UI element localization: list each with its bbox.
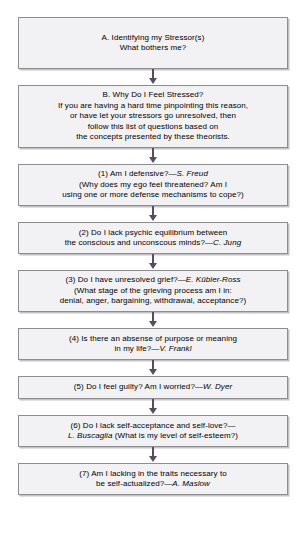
flow-node-question-2-line-1: (2) Do I lack psychic equilibrium betwee… xyxy=(79,228,228,238)
flow-node-question-1-line-2: (Why does my ego feel threatened? Am I xyxy=(79,180,227,190)
flow-node-question-2-line-2: the conscious and unconscous minds?—C. J… xyxy=(65,238,241,248)
question-1-text: (1) Am I defensive?— xyxy=(98,169,177,178)
question-6-attribution: L. Buscaglia xyxy=(68,431,113,440)
question-3-attribution: E. Kübler-Ross xyxy=(186,275,241,284)
flow-node-question-6-line-2: L. Buscaglia (What is my level of self-e… xyxy=(68,431,238,441)
question-2-attribution: C. Jung xyxy=(213,238,241,247)
flow-node-question-1: (1) Am I defensive?—S. Freud (Why does m… xyxy=(18,164,288,206)
question-5-text: (5) Do I feel guilty? Am I worried?— xyxy=(74,382,203,391)
flow-node-question-1-line-1: (1) Am I defensive?—S. Freud xyxy=(98,169,208,179)
flow-arrow-q4-to-q5 xyxy=(18,360,288,376)
question-4-text: in my life?— xyxy=(114,344,159,353)
flow-arrow-b-to-q1 xyxy=(18,148,288,164)
flowchart-container: A. Identifying my Stressor(s) What bothe… xyxy=(0,0,306,540)
flow-node-question-3-line-1: (3) Do I have unresolved grief?—E. Küble… xyxy=(65,275,240,285)
flow-node-question-4: (4) Is there an absense of purpose or me… xyxy=(18,328,288,360)
question-7-attribution: A. Maslow xyxy=(172,479,210,488)
flow-node-a-line-1: A. Identifying my Stressor(s) xyxy=(102,33,205,43)
flow-node-question-4-line-1: (4) Is there an absense of purpose or me… xyxy=(69,334,237,344)
flow-node-question-3-line-3: denial, anger, bargaining, withdrawal, a… xyxy=(60,296,246,306)
flow-arrow-q2-to-q3 xyxy=(18,254,288,270)
arrow-head-down-icon xyxy=(149,321,157,327)
flow-arrow-q3-to-q4 xyxy=(18,312,288,328)
flow-node-question-7-line-2: be self-actualized?—A. Maslow xyxy=(96,479,210,489)
flow-node-question-7-line-1: (7) Am I lacking in the traits necessary… xyxy=(79,469,227,479)
flow-arrow-a-to-b xyxy=(18,69,288,85)
arrow-head-down-icon xyxy=(149,369,157,375)
flow-node-question-7: (7) Am I lacking in the traits necessary… xyxy=(18,463,288,495)
flow-node-b-line-1: B. Why Do I Feel Stressed? xyxy=(103,90,204,100)
flow-node-question-6: (6) Do I lack self-acceptance and self-l… xyxy=(18,415,288,447)
arrow-head-down-icon xyxy=(149,456,157,462)
flow-node-b-line-5: the concepts presented by these theorist… xyxy=(76,132,230,142)
flow-node-a: A. Identifying my Stressor(s) What bothe… xyxy=(18,17,288,69)
flow-node-question-4-line-2: in my life?—V. Frankl xyxy=(114,344,191,354)
question-1-attribution: S. Freud xyxy=(177,169,208,178)
question-4-attribution: V. Frankl xyxy=(159,344,191,353)
flow-node-question-5: (5) Do I feel guilty? Am I worried?—W. D… xyxy=(18,376,288,399)
flow-node-b: B. Why Do I Feel Stressed? If you are ha… xyxy=(18,85,288,148)
arrow-head-down-icon xyxy=(149,215,157,221)
question-6-text: (What is my level of self-esteem?) xyxy=(113,431,239,440)
question-5-attribution: W. Dyer xyxy=(203,382,232,391)
flow-node-question-5-line-1: (5) Do I feel guilty? Am I worried?—W. D… xyxy=(74,382,232,392)
flow-node-question-3-line-2: (What stage of the grieving process am I… xyxy=(74,286,232,296)
arrow-head-down-icon xyxy=(149,157,157,163)
flow-node-question-2: (2) Do I lack psychic equilibrium betwee… xyxy=(18,222,288,254)
arrow-head-down-icon xyxy=(149,263,157,269)
flow-node-question-1-line-3: using one or more defense mechanisms to … xyxy=(62,190,244,200)
flow-arrow-q6-to-q7 xyxy=(18,447,288,463)
flow-node-b-line-2: If you are having a hard time pinpointin… xyxy=(58,101,248,111)
flow-arrow-q1-to-q2 xyxy=(18,206,288,222)
flow-node-b-line-3: or have let your stressors go unresolved… xyxy=(70,111,236,121)
flow-node-b-line-4: follow this list of questions based on xyxy=(88,122,219,132)
arrow-head-down-icon xyxy=(149,78,157,84)
flow-arrow-q5-to-q6 xyxy=(18,399,288,415)
flow-node-question-3: (3) Do I have unresolved grief?—E. Küble… xyxy=(18,270,288,312)
question-2-text: the conscious and unconscous minds?— xyxy=(65,238,213,247)
flow-node-question-6-line-1: (6) Do I lack self-acceptance and self-l… xyxy=(70,421,235,431)
flow-node-a-line-2: What bothers me? xyxy=(120,43,187,53)
question-7-text: be self-actualized?— xyxy=(96,479,172,488)
arrow-head-down-icon xyxy=(149,408,157,414)
question-3-text: (3) Do I have unresolved grief?— xyxy=(65,275,185,284)
